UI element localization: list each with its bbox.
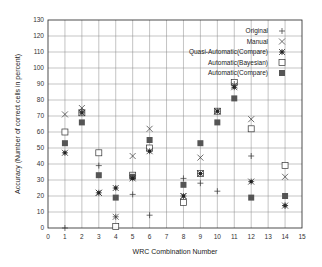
y-tick-label: 40 xyxy=(37,160,45,167)
filled-square-marker xyxy=(96,172,102,178)
scatter-chart: 0123456789101112131415 01020304050607080… xyxy=(0,0,322,267)
y-tick-label: 80 xyxy=(37,96,45,103)
series-quasi-automatic-compare xyxy=(62,84,288,208)
open-square-marker xyxy=(282,163,288,169)
y-tick-label: 100 xyxy=(33,64,44,71)
y-tick-label: 10 xyxy=(37,208,45,215)
x-tick-label: 2 xyxy=(80,233,84,240)
star-marker xyxy=(113,185,119,191)
star-marker xyxy=(279,49,285,55)
filled-square-marker xyxy=(180,182,186,188)
plus-marker xyxy=(62,225,68,231)
x-tick-label: 1 xyxy=(63,233,67,240)
plus-marker xyxy=(248,153,254,159)
y-tick-label: 50 xyxy=(37,144,45,151)
legend-label: Quasi-Automatic(Compare) xyxy=(189,48,268,56)
y-tick-label: 120 xyxy=(33,32,44,39)
legend-item: Automatic(Bayesian) xyxy=(208,59,285,67)
star-marker xyxy=(180,193,186,199)
legend-label: Manual xyxy=(247,38,269,45)
legend-item: Automatic(Compare) xyxy=(208,69,285,77)
x-tick-label: 10 xyxy=(214,233,222,240)
plus-marker xyxy=(96,163,102,169)
y-tick-label: 130 xyxy=(33,16,44,23)
x-tick-label: 0 xyxy=(46,233,50,240)
open-square-marker xyxy=(279,60,285,66)
x-marker xyxy=(279,39,285,45)
y-tick-label: 110 xyxy=(34,48,45,55)
open-square-marker xyxy=(248,126,254,132)
legend-item: Quasi-Automatic(Compare) xyxy=(189,48,285,56)
legend-label: Automatic(Bayesian) xyxy=(208,59,268,67)
legend-label: Original xyxy=(246,27,269,35)
y-tick-label: 30 xyxy=(37,176,45,183)
open-square-marker xyxy=(96,150,102,156)
x-tick-label: 14 xyxy=(281,233,289,240)
y-tick-label: 60 xyxy=(37,128,45,135)
legend: OriginalManualQuasi-Automatic(Compare)Au… xyxy=(189,27,285,77)
x-tick-label: 12 xyxy=(248,233,256,240)
open-square-marker xyxy=(62,129,68,135)
star-marker xyxy=(62,150,68,156)
legend-item: Original xyxy=(246,27,285,35)
filled-square-marker xyxy=(279,70,285,76)
plus-marker xyxy=(279,28,285,34)
star-marker xyxy=(130,175,136,181)
filled-square-marker xyxy=(147,137,153,143)
y-tick-label: 20 xyxy=(37,192,45,199)
x-axis-label: WRC Combination Number xyxy=(133,248,218,255)
legend-label: Automatic(Compare) xyxy=(208,69,268,77)
y-axis-label: Accuracy (Number of correct cells in per… xyxy=(14,54,22,194)
star-marker xyxy=(96,190,102,196)
x-tick-label: 5 xyxy=(131,233,135,240)
x-tick-label: 15 xyxy=(298,233,306,240)
plus-marker xyxy=(180,175,186,181)
filled-square-marker xyxy=(231,95,237,101)
filled-square-marker xyxy=(214,119,220,125)
filled-square-marker xyxy=(79,119,85,125)
open-square-marker xyxy=(180,199,186,205)
filled-square-marker xyxy=(248,195,254,201)
plus-marker xyxy=(214,188,220,194)
x-axis-ticks: 0123456789101112131415 xyxy=(46,233,306,240)
legend-item: Manual xyxy=(247,38,285,45)
plus-marker xyxy=(130,191,136,197)
star-marker xyxy=(147,148,153,154)
x-tick-label: 4 xyxy=(114,233,118,240)
star-marker xyxy=(248,179,254,185)
x-tick-label: 9 xyxy=(199,233,203,240)
filled-square-marker xyxy=(113,195,119,201)
filled-square-marker xyxy=(282,193,288,199)
y-tick-label: 70 xyxy=(37,112,45,119)
plus-marker xyxy=(197,180,203,186)
filled-square-marker xyxy=(197,140,203,146)
star-marker xyxy=(197,171,203,177)
data-points xyxy=(62,79,288,231)
x-tick-label: 7 xyxy=(165,233,169,240)
x-tick-label: 3 xyxy=(97,233,101,240)
series-automatic-bayesian xyxy=(62,79,288,229)
filled-square-marker xyxy=(62,140,68,146)
y-tick-label: 90 xyxy=(37,80,45,87)
y-axis-ticks: 0102030405060708090100110120130 xyxy=(33,16,44,231)
x-tick-label: 6 xyxy=(148,233,152,240)
star-marker xyxy=(214,108,220,114)
x-tick-label: 13 xyxy=(265,233,273,240)
x-tick-label: 11 xyxy=(231,233,238,240)
plus-marker xyxy=(147,212,153,218)
x-tick-label: 8 xyxy=(182,233,186,240)
open-square-marker xyxy=(113,223,119,229)
y-tick-label: 0 xyxy=(40,224,44,231)
